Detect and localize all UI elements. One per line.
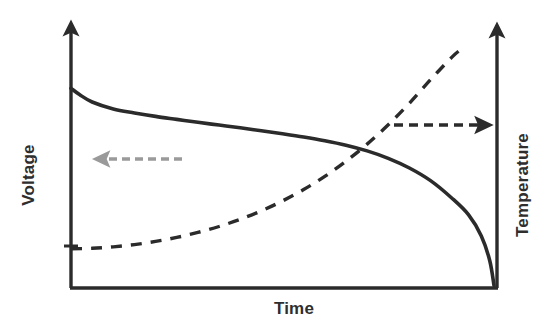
voltage-curve [71, 88, 494, 285]
temperature-curve [71, 50, 460, 249]
chart-plot-area [0, 0, 560, 333]
chart-figure: Voltage Temperature Time [0, 0, 560, 333]
bottom-axis-label: Time [234, 299, 354, 319]
right-axis-label: Temperature [512, 95, 534, 275]
left-axis-label: Voltage [18, 105, 40, 245]
